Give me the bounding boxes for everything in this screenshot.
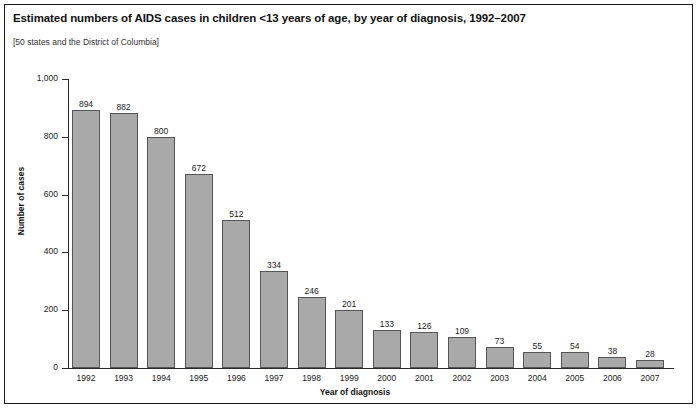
bar-value-label: 38 xyxy=(608,346,617,356)
x-axis-tick-label: 1995 xyxy=(179,373,219,383)
bar-value-label: 28 xyxy=(645,349,654,359)
y-axis-tick-mark xyxy=(62,137,68,138)
x-axis-tick-label: 2006 xyxy=(592,373,632,383)
bar: 894 xyxy=(72,110,100,368)
y-axis-tick: 200 xyxy=(0,310,68,311)
x-axis-tick-label: 1999 xyxy=(329,373,369,383)
bar-value-label: 882 xyxy=(117,102,131,112)
bar: 882 xyxy=(110,113,138,368)
x-axis-tick-label: 2000 xyxy=(367,373,407,383)
bar: 109 xyxy=(448,337,476,369)
bar: 672 xyxy=(185,174,213,368)
x-axis-tick-label: 2005 xyxy=(555,373,595,383)
bar-value-label: 73 xyxy=(495,336,504,346)
bar: 334 xyxy=(260,271,288,368)
bar: 133 xyxy=(373,330,401,368)
x-axis-tick-label: 2004 xyxy=(517,373,557,383)
y-axis-tick-mark xyxy=(62,368,68,369)
y-axis-label: Number of cases xyxy=(16,156,26,246)
x-axis-label: Year of diagnosis xyxy=(255,387,455,397)
x-axis-tick-label: 2002 xyxy=(442,373,482,383)
bar-value-label: 800 xyxy=(154,126,168,136)
y-axis-tick-mark xyxy=(62,310,68,311)
bar: 201 xyxy=(335,310,363,368)
x-axis-tick-label: 2001 xyxy=(404,373,444,383)
x-axis-tick-label: 2007 xyxy=(630,373,670,383)
bar: 28 xyxy=(636,360,664,368)
bar-value-label: 126 xyxy=(417,321,431,331)
y-axis-tick-label: 1,000 xyxy=(0,73,58,83)
bar-chart-plot: 02004006008001,000 Number of cases Year … xyxy=(0,0,697,408)
bar-value-label: 109 xyxy=(455,326,469,336)
bar: 38 xyxy=(598,357,626,368)
y-axis-tick-label: 600 xyxy=(0,189,58,199)
x-axis-tick-label: 1992 xyxy=(66,373,106,383)
bar: 512 xyxy=(222,220,250,368)
bar: 73 xyxy=(486,347,514,368)
x-axis-tick-label: 1998 xyxy=(292,373,332,383)
bar: 126 xyxy=(410,332,438,368)
x-axis-tick-label: 1996 xyxy=(216,373,256,383)
y-axis-tick: 400 xyxy=(0,252,68,253)
bar-value-label: 133 xyxy=(380,319,394,329)
bar-value-label: 55 xyxy=(532,341,541,351)
bar-value-label: 672 xyxy=(192,163,206,173)
y-axis-tick: 800 xyxy=(0,137,68,138)
y-axis-tick-label: 400 xyxy=(0,246,58,256)
y-axis-tick-label: 200 xyxy=(0,304,58,314)
y-axis-tick-mark xyxy=(62,252,68,253)
y-axis-tick: 0 xyxy=(0,368,68,369)
y-axis-tick-label: 800 xyxy=(0,131,58,141)
bar-value-label: 54 xyxy=(570,341,579,351)
bars-layer: 8948828006725123342462011331261097355543… xyxy=(72,79,672,368)
y-axis-tick-label: 0 xyxy=(0,362,58,372)
bar: 55 xyxy=(523,352,551,368)
x-axis-line xyxy=(68,368,674,369)
y-axis-line xyxy=(68,79,69,369)
bar-value-label: 334 xyxy=(267,260,281,270)
y-axis-tick: 600 xyxy=(0,195,68,196)
bar-value-label: 246 xyxy=(305,286,319,296)
x-axis-tick-label: 1993 xyxy=(104,373,144,383)
y-axis-tick-mark xyxy=(62,79,68,80)
bar-value-label: 201 xyxy=(342,299,356,309)
x-axis-tick-label: 2003 xyxy=(480,373,520,383)
y-axis-tick-mark xyxy=(62,195,68,196)
bar: 54 xyxy=(561,352,589,368)
bar-value-label: 894 xyxy=(79,99,93,109)
x-axis-tick-label: 1997 xyxy=(254,373,294,383)
y-axis-tick: 1,000 xyxy=(0,79,68,80)
bar: 246 xyxy=(298,297,326,368)
chart-page: Estimated numbers of AIDS cases in child… xyxy=(0,0,697,408)
bar: 800 xyxy=(147,137,175,368)
bar-value-label: 512 xyxy=(229,209,243,219)
x-axis-tick-label: 1994 xyxy=(141,373,181,383)
